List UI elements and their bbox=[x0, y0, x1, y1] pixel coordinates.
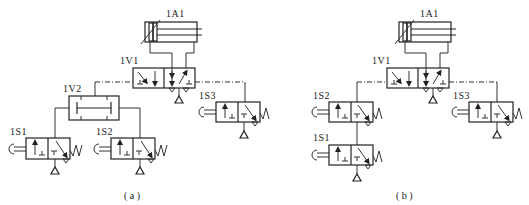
label-1s1-a: 1S1 bbox=[10, 126, 27, 137]
label-1s1-b: 1S1 bbox=[313, 132, 330, 143]
label-1s2-b: 1S2 bbox=[313, 90, 330, 101]
diagram-a bbox=[9, 20, 269, 174]
label-1v1-a: 1V1 bbox=[120, 55, 139, 66]
pneumatic-diagrams bbox=[0, 0, 529, 205]
label-1a1-a: 1A1 bbox=[166, 8, 185, 19]
label-1s3-a: 1S3 bbox=[199, 90, 216, 101]
valve-1v1-a bbox=[95, 68, 245, 103]
label-1v2-a: 1V2 bbox=[63, 83, 82, 94]
sensor-valve-1s1-b bbox=[312, 145, 382, 181]
diagram-b bbox=[312, 20, 522, 181]
label-1v1-b: 1V1 bbox=[372, 55, 391, 66]
caption-a: ( a ) bbox=[124, 190, 140, 201]
sensor-valve-1s2-a bbox=[94, 138, 167, 174]
valve-1v1-b bbox=[357, 68, 497, 103]
label-1s3-b: 1S3 bbox=[453, 90, 470, 101]
label-1s2-a: 1S2 bbox=[96, 126, 113, 137]
sensor-valve-1s1-a bbox=[9, 138, 82, 174]
caption-b: ( b ) bbox=[396, 190, 413, 201]
label-1a1-b: 1A1 bbox=[420, 8, 439, 19]
